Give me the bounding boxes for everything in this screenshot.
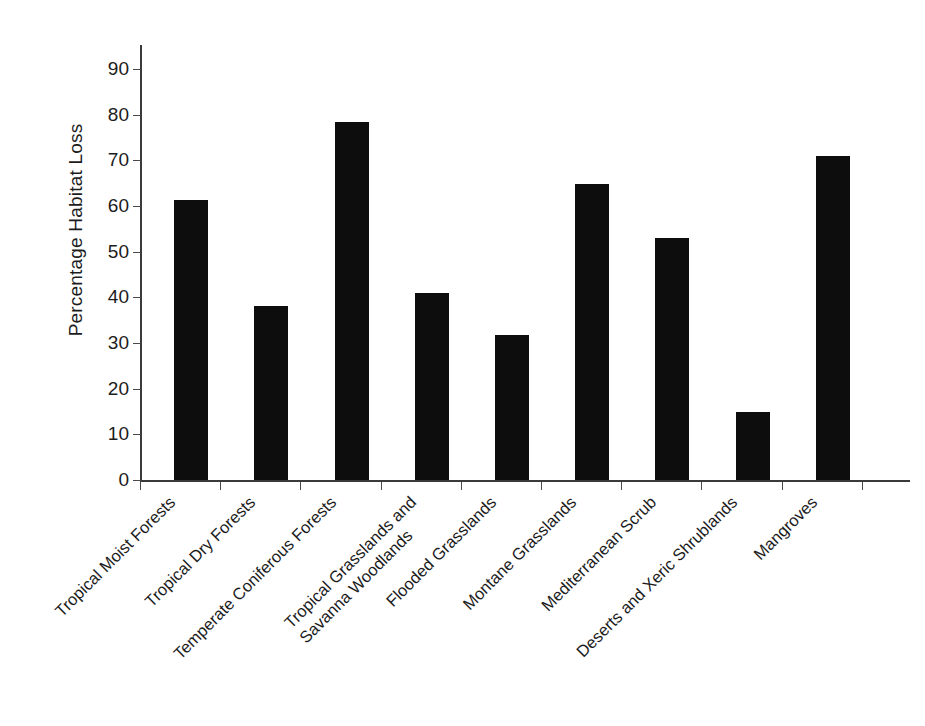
- bar[interactable]: [736, 412, 770, 480]
- bar[interactable]: [495, 335, 529, 480]
- y-axis-title: Percentage Habitat Loss: [56, 0, 96, 460]
- bar[interactable]: [254, 306, 288, 480]
- plot-area: 0102030405060708090: [140, 45, 910, 482]
- bar[interactable]: [415, 293, 449, 480]
- y-tick-mark: [133, 343, 141, 344]
- x-category-label-line: Tropical Grasslands and: [280, 493, 419, 632]
- y-tick-mark: [133, 297, 141, 298]
- y-tick-mark: [133, 252, 141, 253]
- x-category-label: Deserts and Xeric Shrublands: [572, 492, 742, 662]
- bar[interactable]: [655, 238, 689, 480]
- x-tick-mark: [862, 482, 863, 490]
- y-tick-label: 30: [108, 332, 129, 354]
- y-tick-label: 40: [108, 286, 129, 308]
- y-tick-label: 0: [118, 469, 129, 491]
- y-tick-label: 60: [108, 195, 129, 217]
- y-tick-mark: [133, 389, 141, 390]
- x-tick-mark: [782, 482, 783, 490]
- x-tick-mark: [621, 482, 622, 490]
- x-category-label-line: Deserts and Xeric Shrublands: [572, 493, 740, 661]
- bar[interactable]: [174, 200, 208, 480]
- y-tick-mark: [133, 206, 141, 207]
- bar[interactable]: [816, 156, 850, 480]
- x-tick-mark: [220, 482, 221, 490]
- x-axis-line: [140, 480, 910, 482]
- x-tick-mark: [701, 482, 702, 490]
- y-tick-mark: [133, 69, 141, 70]
- chart-page: Percentage Habitat Loss 0102030405060708…: [0, 0, 925, 726]
- bar[interactable]: [335, 122, 369, 480]
- x-category-label-line: Mangroves: [750, 493, 820, 563]
- y-tick-label: 70: [108, 149, 129, 171]
- y-tick-mark: [133, 480, 141, 481]
- y-tick-label: 90: [108, 58, 129, 80]
- bar[interactable]: [575, 184, 609, 480]
- x-category-label: Mangroves: [749, 492, 821, 564]
- y-tick-label: 50: [108, 241, 129, 263]
- y-axis-line: [140, 45, 142, 482]
- y-tick-label: 80: [108, 104, 129, 126]
- y-tick-label: 10: [108, 423, 129, 445]
- y-tick-mark: [133, 434, 141, 435]
- y-tick-label: 20: [108, 378, 129, 400]
- x-tick-mark: [381, 482, 382, 490]
- x-tick-mark: [461, 482, 462, 490]
- x-tick-mark: [300, 482, 301, 490]
- y-tick-mark: [133, 115, 141, 116]
- x-tick-mark: [541, 482, 542, 490]
- y-tick-mark: [133, 160, 141, 161]
- x-tick-mark: [140, 482, 141, 490]
